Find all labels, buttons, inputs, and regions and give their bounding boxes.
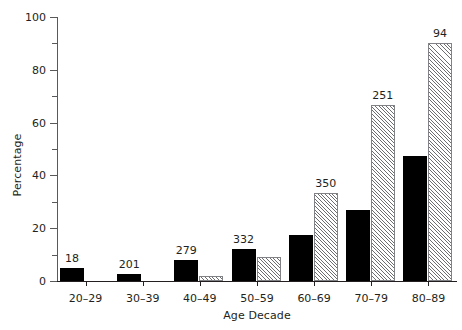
bar-solid	[117, 274, 141, 281]
y-axis-tick-label: 80	[32, 65, 46, 76]
x-axis-category-label: 40–49	[171, 293, 228, 304]
bar-hatched	[199, 276, 223, 281]
x-axis-category-label: 30–39	[114, 293, 171, 304]
bar-group-annotation: 94	[420, 28, 460, 39]
bar-solid	[232, 249, 256, 281]
bar-group-annotation: 279	[166, 245, 206, 256]
y-axis-major-tick	[50, 123, 57, 124]
x-axis-title: Age Decade	[57, 309, 457, 322]
bar-group-annotation: 201	[109, 259, 149, 270]
bar-solid	[403, 156, 427, 281]
bar-solid	[346, 210, 370, 281]
y-axis-major-tick	[50, 175, 57, 176]
bar-group-annotation: 350	[306, 178, 346, 189]
y-axis-major-tick	[50, 70, 57, 71]
x-axis-tick	[314, 281, 315, 286]
bar-group-annotation: 18	[52, 253, 92, 264]
bar-hatched	[257, 257, 281, 281]
x-axis-tick	[143, 281, 144, 286]
bar-group-annotation: 251	[363, 90, 403, 101]
x-axis-category-label: 60–69	[286, 293, 343, 304]
y-axis-major-tick	[50, 281, 57, 282]
x-axis-tick	[86, 281, 87, 286]
y-axis-tick-label: 40	[32, 170, 46, 181]
y-axis-major-tick	[50, 17, 57, 18]
y-axis-minor-tick	[52, 43, 57, 44]
bar-solid	[60, 268, 84, 281]
x-axis-category-label: 20–29	[57, 293, 114, 304]
y-axis-tick-label: 100	[25, 12, 46, 23]
bar-group-annotation: 332	[224, 234, 264, 245]
x-axis-category-label: 50–59	[228, 293, 285, 304]
x-axis-tick	[371, 281, 372, 286]
y-axis-tick-label: 20	[32, 223, 46, 234]
x-axis-tick	[428, 281, 429, 286]
y-axis-minor-tick	[52, 96, 57, 97]
plot-area: 020406080100 1820127933235025194 20–2930…	[57, 17, 457, 281]
y-axis-minor-tick	[52, 149, 57, 150]
bar-hatched	[314, 193, 338, 281]
bar-solid	[174, 260, 198, 281]
x-axis-tick	[257, 281, 258, 286]
bar-solid	[289, 235, 313, 281]
x-axis-tick	[200, 281, 201, 286]
x-axis-category-label: 80–89	[400, 293, 457, 304]
x-axis-category-label: 70–79	[343, 293, 400, 304]
bar-hatched	[428, 43, 452, 281]
y-axis-major-tick	[50, 228, 57, 229]
y-axis-ticks: 020406080100	[56, 17, 57, 281]
y-axis-tick-label: 60	[32, 118, 46, 129]
y-axis-tick-label: 0	[39, 276, 46, 287]
bar-hatched	[371, 105, 395, 281]
y-axis-line	[57, 17, 58, 281]
y-axis-minor-tick	[52, 202, 57, 203]
bar-chart-figure: Percentage 020406080100 1820127933235025…	[0, 0, 462, 330]
y-axis-title: Percentage	[6, 0, 28, 330]
